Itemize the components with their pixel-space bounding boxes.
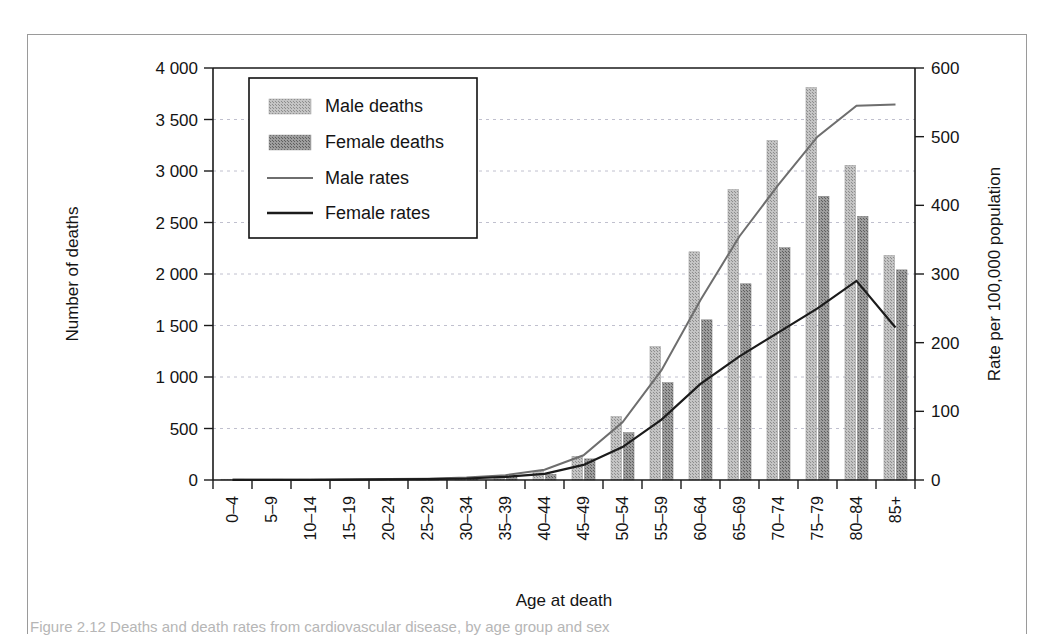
figure-caption-strip: Figure 2.12 Deaths and death rates from … [28,620,1026,643]
bar-female [546,474,557,480]
y2-axis-labels: 0100200300400500600 [931,59,959,490]
x-category-label: 55–59 [653,496,670,541]
y-tick-label: 0 [189,471,198,490]
bar-male [728,190,739,480]
line-female-rates [233,281,896,480]
y-tick-label: 2 500 [155,214,198,233]
y-tick-label: 500 [170,420,198,439]
bar-female [780,248,791,480]
chart-svg: 05001 0001 5002 0002 5003 0003 5004 000 … [0,0,1055,643]
x-category-label: 85+ [887,496,904,523]
x-category-label: 15–19 [341,496,358,541]
y2-tick-label: 500 [931,128,959,147]
bar-female [741,284,752,480]
x-category-label: 80–84 [848,496,865,541]
x-category-label: 0–4 [224,496,241,523]
bar-male [806,88,817,480]
legend-label: Female rates [325,203,430,223]
legend-label: Female deaths [325,132,444,152]
bar-male [845,165,856,480]
bar-female [819,196,830,480]
y-tick-label: 3 000 [155,162,198,181]
x-category-label: 20–24 [380,496,397,541]
y2-tick-label: 300 [931,265,959,284]
y-tick-label: 4 000 [155,59,198,78]
y-tick-label: 3 500 [155,111,198,130]
y-tick-label: 1 500 [155,317,198,336]
legend-label: Male rates [325,168,409,188]
y-axis-labels: 05001 0001 5002 0002 5003 0003 5004 000 [155,59,198,490]
bar-male [884,255,895,480]
x-category-label: 50–54 [614,496,631,541]
x-category-label: 25–29 [419,496,436,541]
figure-caption: Figure 2.12 Deaths and death rates from … [30,620,610,635]
bar-female [858,216,869,480]
legend-swatch-male-deaths [269,99,311,114]
chart-plot: 05001 0001 5002 0002 5003 0003 5004 000 … [0,0,1055,643]
y-tick-label: 2 000 [155,265,198,284]
x-category-label: 60–64 [692,496,709,541]
x-category-label: 5–9 [263,496,280,523]
x-category-label: 40–44 [536,496,553,541]
x-category-label: 70–74 [770,496,787,541]
y2-axis-title: Rate per 100,000 population [985,167,1004,382]
legend-label: Male deaths [325,96,423,116]
y2-tick-label: 100 [931,402,959,421]
y2-tick-label: 600 [931,59,959,78]
x-category-label: 10–14 [302,496,319,541]
y-axis-title: Number of deaths [63,206,82,341]
bar-female [702,320,713,480]
y2-tick-label: 0 [931,471,940,490]
bar-female [663,383,674,480]
y-tick-label: 1 000 [155,368,198,387]
x-axis-title: Age at death [516,591,612,610]
bar-male [650,347,661,480]
x-axis-category-labels: 0–45–910–1415–1920–2425–2930–3435–3940–4… [224,496,904,541]
x-category-label: 45–49 [575,496,592,541]
chart-legend: Male deathsFemale deathsMale ratesFemale… [249,78,477,238]
x-category-label: 35–39 [497,496,514,541]
x-category-label: 65–69 [731,496,748,541]
bar-male [689,252,700,480]
bar-female [897,270,908,480]
y2-tick-label: 400 [931,196,959,215]
x-category-label: 30–34 [458,496,475,541]
legend-swatch-female-deaths [269,135,311,150]
x-category-label: 75–79 [809,496,826,541]
y2-tick-label: 200 [931,334,959,353]
